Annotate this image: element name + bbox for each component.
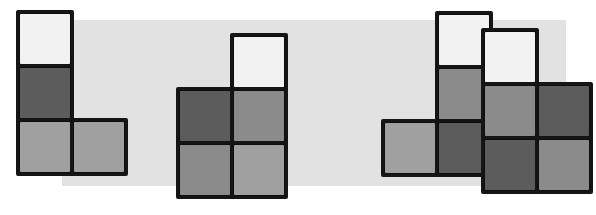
shape-1-cell-r1c0[interactable] [16, 64, 74, 122]
shape-1-cell-r0c0[interactable] [16, 10, 74, 68]
scene-canvas [0, 0, 596, 215]
shape-4-cell-r2c0[interactable] [481, 136, 539, 194]
shape-2-cell-r2c1[interactable] [230, 141, 288, 199]
shape-2-cell-r0c1[interactable] [230, 33, 288, 91]
shape-4-cell-r0c0[interactable] [481, 28, 539, 86]
shape-2-cell-r2c0[interactable] [176, 141, 234, 199]
shape-3-cell-r2c0[interactable] [381, 119, 439, 177]
shape-4-cell-r1c0[interactable] [481, 82, 539, 140]
shape-4-cell-r1c1[interactable] [535, 82, 593, 140]
shape-4-cell-r2c1[interactable] [535, 136, 593, 194]
shape-1-cell-r2c1[interactable] [70, 118, 128, 176]
shape-2-cell-r1c0[interactable] [176, 87, 234, 145]
shape-1-cell-r2c0[interactable] [16, 118, 74, 176]
shape-2-cell-r1c1[interactable] [230, 87, 288, 145]
